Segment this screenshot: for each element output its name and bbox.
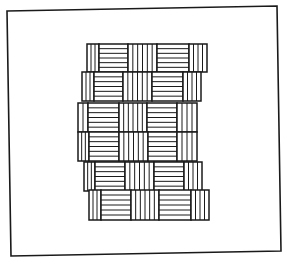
tile-horizontal bbox=[89, 132, 119, 161]
pattern-rows bbox=[78, 44, 209, 220]
pattern-row-2 bbox=[82, 72, 201, 101]
tile-vertical bbox=[119, 103, 147, 132]
tile-outline bbox=[84, 162, 95, 191]
tile-horizontal bbox=[101, 190, 131, 220]
pattern-row-1 bbox=[87, 44, 207, 72]
tile-vertical bbox=[131, 190, 159, 220]
tile-vertical bbox=[177, 103, 197, 132]
tile-horizontal bbox=[148, 132, 177, 161]
pattern-row-4 bbox=[78, 132, 197, 161]
tile-vertical bbox=[87, 44, 99, 72]
tile-horizontal bbox=[147, 103, 177, 132]
tile-horizontal bbox=[95, 162, 125, 191]
tile-horizontal bbox=[157, 44, 189, 72]
tile-vertical bbox=[177, 132, 197, 161]
tile-horizontal bbox=[88, 103, 119, 132]
tile-horizontal bbox=[94, 72, 123, 101]
tile-vertical bbox=[84, 162, 95, 191]
tile-outline bbox=[82, 72, 94, 101]
tile-vertical bbox=[189, 44, 207, 72]
tile-vertical bbox=[78, 103, 88, 132]
pattern-row-5 bbox=[84, 162, 202, 191]
pattern-row-6 bbox=[89, 190, 209, 220]
tile-horizontal bbox=[99, 44, 128, 72]
tile-vertical bbox=[183, 72, 201, 101]
tile-horizontal bbox=[154, 162, 184, 191]
tile-vertical bbox=[125, 162, 154, 191]
basketweave-figure bbox=[0, 0, 287, 258]
tile-horizontal bbox=[152, 72, 183, 101]
tile-vertical bbox=[128, 44, 157, 72]
tile-outline bbox=[89, 190, 101, 220]
tile-outline bbox=[78, 132, 89, 161]
tile-vertical bbox=[119, 132, 148, 161]
tile-outline bbox=[87, 44, 99, 72]
tile-vertical bbox=[123, 72, 152, 101]
tile-horizontal bbox=[159, 190, 191, 220]
tile-vertical bbox=[191, 190, 209, 220]
tile-vertical bbox=[184, 162, 202, 191]
figure-canvas bbox=[0, 0, 287, 258]
tile-vertical bbox=[78, 132, 89, 161]
tile-vertical bbox=[82, 72, 94, 101]
pattern-row-3 bbox=[78, 103, 197, 132]
tile-vertical bbox=[89, 190, 101, 220]
